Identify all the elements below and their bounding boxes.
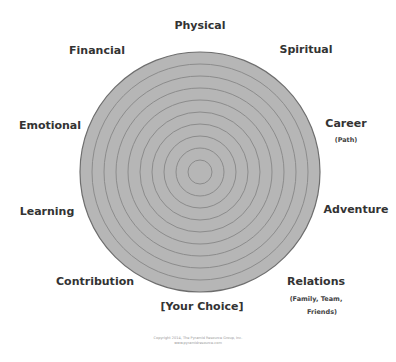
category-physical: Physical — [172, 19, 228, 32]
category-career: Career — [324, 117, 368, 130]
category-relations: Relations — [281, 275, 351, 288]
category-relations-sublabel-1: (Family, Team, — [284, 295, 348, 303]
category-relations-sublabel-2: Friends) — [294, 308, 350, 316]
category-your-choice: [Your Choice] — [160, 300, 244, 313]
category-learning: Learning — [18, 205, 76, 218]
category-spiritual: Spiritual — [276, 43, 336, 56]
category-career-sublabel: (Path) — [328, 136, 364, 144]
category-financial: Financial — [66, 44, 128, 57]
category-contribution: Contribution — [56, 275, 130, 288]
concentric-rings — [80, 52, 320, 292]
category-emotional: Emotional — [18, 119, 82, 132]
copyright-line-2: www.pyramidresource.com — [0, 341, 396, 346]
category-adventure: Adventure — [322, 203, 390, 216]
